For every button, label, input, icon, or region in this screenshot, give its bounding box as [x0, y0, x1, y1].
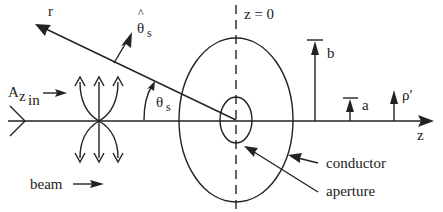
aperture-arrowhead-icon [244, 146, 258, 157]
aperture-diagram: z z = 0 r ^ θ s θ s A z in [0, 0, 443, 212]
beam-label: beam [30, 176, 63, 192]
theta-s-arrowhead-icon [147, 81, 155, 91]
theta-hat-arrowhead-icon [121, 32, 132, 48]
theta-hat-vector: ^ θ s [114, 6, 152, 63]
z-axis-label: z [417, 127, 424, 143]
z-zero-label: z = 0 [244, 6, 274, 22]
theta-hat-subscript: s [147, 26, 152, 40]
field-lines-icon [75, 77, 123, 162]
b-arrowhead-icon [311, 41, 319, 55]
theta-s-subscript: s [166, 100, 171, 114]
a-z-in-label: A [8, 84, 19, 100]
b-label: b [327, 45, 335, 61]
aperture-label: aperture [326, 183, 375, 199]
conductor-label: conductor [326, 155, 386, 171]
a-z-in-sub-z: z [19, 88, 26, 104]
rho-prime-label: ρ′ [402, 87, 413, 103]
r-label: r [48, 3, 53, 19]
a-dimension: a [343, 97, 369, 121]
theta-hat-label: θ [137, 20, 144, 36]
theta-hat-caret: ^ [138, 6, 144, 20]
theta-s-label: θ [156, 94, 163, 110]
beam-label-group: beam [30, 176, 104, 192]
b-dimension: b [307, 40, 335, 121]
beam-arrowhead-icon [90, 180, 104, 188]
conductor-pointer: conductor [288, 153, 386, 171]
rho-prime-dimension: ρ′ [390, 87, 413, 121]
a-label: a [362, 97, 369, 113]
rho-prime-arrowhead-icon [390, 90, 398, 104]
z-zero-plane: z = 0 [236, 5, 274, 210]
a-z-in-label-group: A z in [8, 84, 67, 108]
a-arrowhead-icon [346, 99, 354, 112]
a-z-in-sub-in: in [28, 92, 40, 108]
conductor-arrowhead-icon [288, 153, 302, 163]
r-radial-line: r [35, 3, 236, 120]
